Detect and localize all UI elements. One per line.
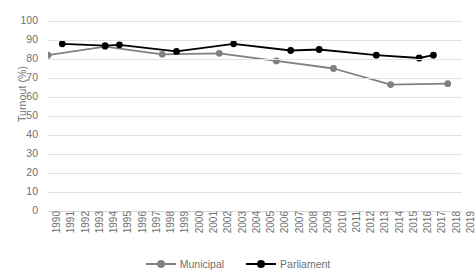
x-tick-label-2017: 2017 <box>437 211 447 259</box>
data-point-1991 <box>59 40 66 47</box>
legend-label: Parliament <box>280 258 330 270</box>
x-tick-label-2016: 2016 <box>423 211 433 259</box>
x-tick-label-2005: 2005 <box>266 211 276 259</box>
gridline-100 <box>48 21 462 22</box>
data-point-2010 <box>330 65 337 72</box>
x-axis-tick-labels: 1990199119921993199419951996199719981999… <box>48 213 462 261</box>
x-tick-label-2010: 2010 <box>338 211 348 259</box>
data-point-2003 <box>230 40 237 47</box>
x-tick-label-2003: 2003 <box>238 211 248 259</box>
gridline-20 <box>48 173 462 174</box>
y-tick-label-70: 70 <box>12 72 38 83</box>
data-point-1994 <box>102 42 109 49</box>
y-tick-label-40: 40 <box>12 129 38 140</box>
x-tick-label-1994: 1994 <box>109 211 119 259</box>
gridline-70 <box>48 78 462 79</box>
x-tick-label-2001: 2001 <box>209 211 219 259</box>
x-tick-label-1990: 1990 <box>52 211 62 259</box>
y-tick-label-20: 20 <box>12 167 38 178</box>
y-tick-label-30: 30 <box>12 148 38 159</box>
y-tick-label-90: 90 <box>12 34 38 45</box>
gridline-10 <box>48 192 462 193</box>
data-point-1995 <box>116 41 123 48</box>
gridline-30 <box>48 154 462 155</box>
gridline-80 <box>48 59 462 60</box>
legend-item-municipal[interactable]: Municipal <box>146 258 224 270</box>
plot-area <box>48 21 462 211</box>
data-point-2007 <box>287 47 294 54</box>
turnout-line-chart: Turnout (%) 1009080706050403020100 19901… <box>0 0 476 280</box>
x-tick-label-2007: 2007 <box>295 211 305 259</box>
chart-legend: MunicipalParliament <box>0 258 476 270</box>
y-tick-label-50: 50 <box>12 110 38 121</box>
y-tick-label-80: 80 <box>12 53 38 64</box>
legend-label: Municipal <box>180 258 224 270</box>
data-point-1990 <box>48 52 51 59</box>
x-tick-label-1995: 1995 <box>123 211 133 259</box>
data-point-2016 <box>416 55 423 62</box>
data-point-1999 <box>173 48 180 55</box>
x-tick-label-2002: 2002 <box>223 211 233 259</box>
x-tick-label-2018: 2018 <box>452 211 462 259</box>
x-tick-label-1996: 1996 <box>138 211 148 259</box>
x-tick-label-1999: 1999 <box>180 211 190 259</box>
legend-item-parliament[interactable]: Parliament <box>246 258 330 270</box>
y-axis-tick-labels: 1009080706050403020100 <box>12 0 38 280</box>
data-point-2017 <box>430 52 437 59</box>
gridline-60 <box>48 97 462 98</box>
legend-swatch-icon <box>146 259 176 269</box>
x-tick-label-2014: 2014 <box>395 211 405 259</box>
data-point-1998 <box>159 51 166 58</box>
x-tick-label-2013: 2013 <box>380 211 390 259</box>
x-tick-label-2015: 2015 <box>409 211 419 259</box>
legend-swatch-icon <box>246 259 276 269</box>
data-point-2009 <box>316 46 323 53</box>
x-tick-label-2011: 2011 <box>352 211 362 259</box>
gridline-90 <box>48 40 462 41</box>
y-tick-label-100: 100 <box>12 15 38 26</box>
gridline-50 <box>48 116 462 117</box>
x-tick-label-1997: 1997 <box>152 211 162 259</box>
y-tick-label-0: 0 <box>12 205 38 216</box>
x-tick-label-2009: 2009 <box>323 211 333 259</box>
x-tick-label-2000: 2000 <box>195 211 205 259</box>
data-point-2018 <box>444 80 451 87</box>
x-tick-label-1993: 1993 <box>95 211 105 259</box>
y-tick-label-10: 10 <box>12 186 38 197</box>
x-tick-label-2019: 2019 <box>466 211 476 259</box>
data-point-2014 <box>387 81 394 88</box>
y-tick-label-60: 60 <box>12 91 38 102</box>
x-tick-label-2012: 2012 <box>366 211 376 259</box>
x-tick-label-2006: 2006 <box>280 211 290 259</box>
gridline-40 <box>48 135 462 136</box>
series-municipal <box>48 43 451 88</box>
x-tick-label-1998: 1998 <box>166 211 176 259</box>
data-point-2002 <box>216 50 223 57</box>
data-point-2013 <box>373 52 380 59</box>
x-tick-label-1992: 1992 <box>81 211 91 259</box>
x-tick-label-2004: 2004 <box>252 211 262 259</box>
x-tick-label-1991: 1991 <box>66 211 76 259</box>
x-tick-label-2008: 2008 <box>309 211 319 259</box>
